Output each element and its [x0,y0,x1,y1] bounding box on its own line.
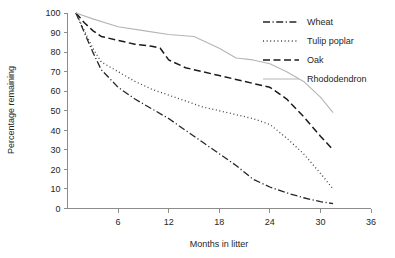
legend-item-rhododendron: Rhododendron [263,74,367,84]
y-tick-label: 90 [50,28,60,38]
x-tick-label: 36 [366,217,376,227]
legend-item-tulip-poplar: Tulip poplar [263,36,354,46]
x-axis-title: Months in litter [190,239,249,249]
legend-item-oak: Oak [263,55,324,65]
chart-figure: 0102030405060708090100 61218243036 Wheat… [0,0,395,258]
x-tick-label: 12 [164,217,174,227]
legend-label: Tulip poplar [307,36,354,46]
x-tick-label: 24 [265,217,275,227]
x-tick-label: 18 [214,217,224,227]
series-line-rhododendron [76,13,333,113]
x-tick-label: 6 [116,217,121,227]
legend-label: Oak [307,55,324,65]
y-tick-label: 0 [55,204,60,214]
y-tick-label: 60 [50,86,60,96]
x-tick-label: 30 [315,217,325,227]
y-tick-label: 10 [50,184,60,194]
y-axis-title: Percentage remaining [6,66,16,154]
y-tick-label: 30 [50,145,60,155]
y-axis-ticks: 0102030405060708090100 [45,8,67,214]
y-tick-label: 50 [50,106,60,116]
y-tick-label: 40 [50,126,60,136]
y-tick-label: 70 [50,67,60,77]
x-axis-ticks: 61218243036 [116,209,376,227]
legend-label: Rhododendron [307,74,367,84]
legend-item-wheat: Wheat [263,17,334,27]
y-tick-label: 100 [45,8,60,18]
legend-group: WheatTulip poplarOakRhododendron [263,17,367,84]
y-tick-label: 20 [50,165,60,175]
line-chart-svg: 0102030405060708090100 61218243036 Wheat… [0,0,395,258]
series-line-oak [76,13,333,150]
y-tick-label: 80 [50,47,60,57]
legend-label: Wheat [307,17,334,27]
series-group [76,13,333,204]
